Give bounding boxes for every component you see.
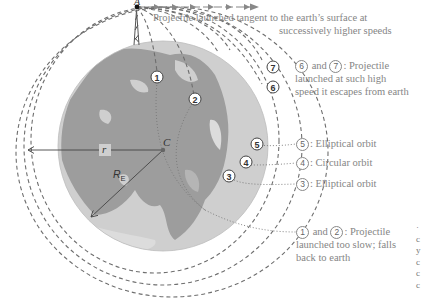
circle-marker-7: 7 [329,60,342,73]
circle-marker-3: 3 [296,178,309,191]
circle-marker-2: 2 [330,226,343,239]
center-point [161,148,165,152]
marker-3: 3 [223,170,235,182]
tangent-arrow-row [137,4,258,10]
circle-marker-4: 4 [296,157,309,170]
annotation-1-2: 1 and 2: Projectile launched too slow; f… [296,226,396,264]
annotation-6-7: 6 and 7: Projectile launched at such hig… [295,60,409,98]
marker-6: 6 [267,81,279,93]
circle-marker-6: 6 [295,60,308,73]
launch-tower [134,10,139,45]
marker-4: 4 [240,156,252,168]
figure-title-line2: successively higher speeds [279,25,392,38]
marker-7: 7 [267,61,279,73]
label-C: C [163,136,171,148]
marker-2: 2 [189,93,201,105]
label-A: A [133,0,141,7]
svg-text:7: 7 [270,63,275,73]
clipped-side-text: · c y c c c [416,222,421,291]
label-r: r [102,143,107,155]
annotation-4: 4: Circular orbit [296,157,372,170]
svg-text:4: 4 [243,158,248,168]
svg-text:2: 2 [192,95,197,105]
circle-marker-1: 1 [296,226,309,239]
marker-1: 1 [151,71,163,83]
annotation-3: 3: Elliptical orbit [296,178,377,191]
svg-text:3: 3 [226,172,231,182]
annotation-5: 5: Elliptical orbit [296,138,377,151]
marker-5: 5 [251,138,263,150]
svg-text:1: 1 [154,73,159,83]
figure-title-line1: Projectile launched tangent to the earth… [153,12,367,25]
svg-text:6: 6 [270,83,275,93]
circle-marker-5: 5 [296,138,309,151]
svg-text:5: 5 [254,140,259,150]
